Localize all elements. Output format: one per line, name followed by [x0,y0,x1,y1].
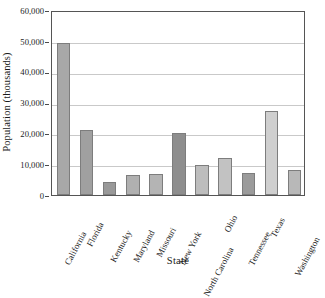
x-axis-title: State [51,255,305,266]
y-axis-tick-label: 30,000 [0,99,44,108]
bar [172,133,185,195]
x-axis-tick-label-text: North Carolina [202,246,235,298]
y-axis-tick-group: 010,00020,00030,00040,00050,00060,000 [0,0,49,270]
bar [242,173,255,195]
y-axis-tick-label: 40,000 [0,68,44,77]
bar [288,170,301,195]
y-axis-tick-label: 20,000 [0,130,44,139]
plot-area [51,11,305,196]
y-axis-tick-label: 50,000 [0,38,44,47]
bar [218,158,231,195]
y-axis-tick-mark [45,196,49,197]
y-axis-tick-mark [45,11,49,12]
x-axis-tick-label-text: Missouri [155,226,178,258]
bar-group [52,12,304,195]
bar [57,43,70,195]
bar [195,165,208,195]
y-axis-tick-mark [45,104,49,105]
bar [265,111,278,195]
x-axis-tick-label: Kentucky [125,198,149,233]
y-axis-tick-mark [45,42,49,43]
y-axis-tick-mark [45,134,49,135]
x-axis-tick-label: New York [195,198,220,234]
bar [80,130,93,195]
x-axis-tick-label: Washington [314,198,325,240]
x-axis-tick-label: Missouri [170,198,193,230]
bar [103,182,116,195]
bar [126,175,139,195]
bar [149,174,162,195]
y-axis-tick-mark [45,165,49,166]
y-axis-tick-mark [45,73,49,74]
y-axis-tick-label: 0 [0,192,44,201]
y-axis-tick-label: 60,000 [0,7,44,16]
y-axis-tick-label: 10,000 [0,161,44,170]
